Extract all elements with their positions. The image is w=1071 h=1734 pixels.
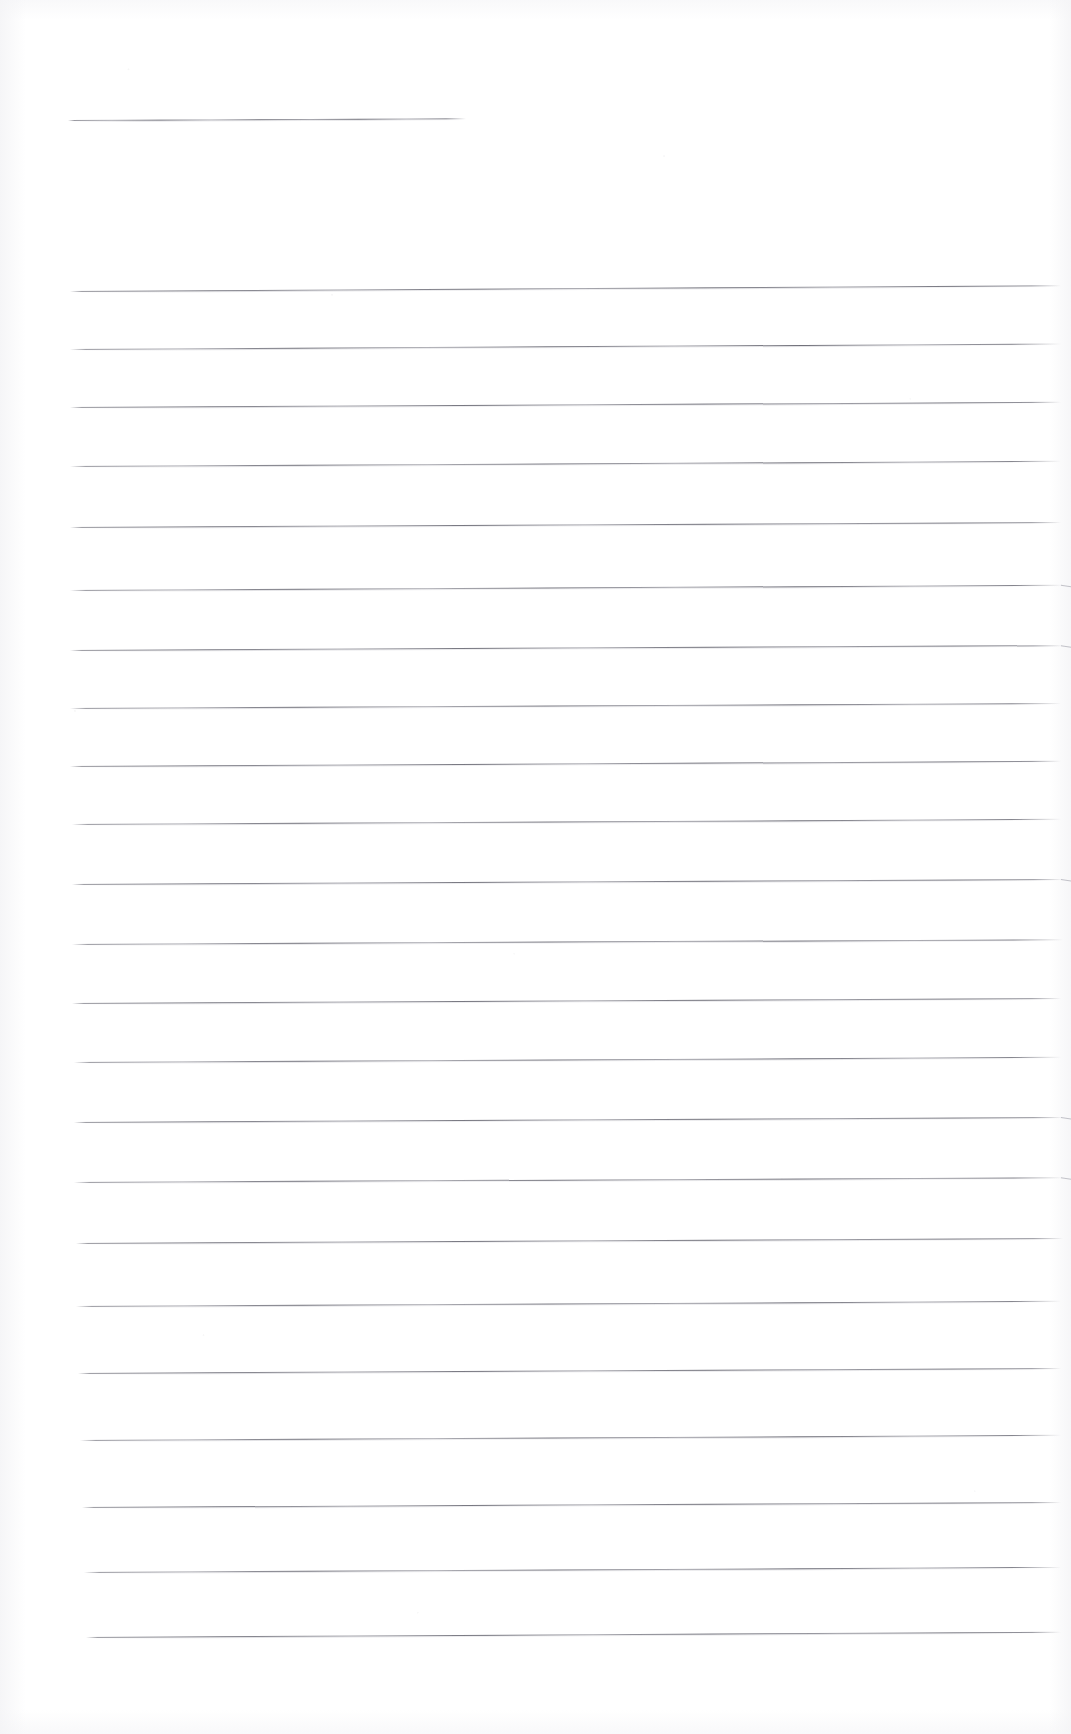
rule-05 <box>70 522 1061 528</box>
rule-18 <box>76 1301 1061 1307</box>
rule-17 <box>76 1238 1063 1244</box>
rule-03 <box>70 402 1061 408</box>
rule-22 <box>84 1567 1061 1573</box>
rule-07 <box>70 645 1063 651</box>
rule-08 <box>70 703 1061 709</box>
rule-10 <box>72 819 1061 825</box>
rule-23 <box>86 1632 1061 1638</box>
rule-header <box>68 118 466 121</box>
paper-grain-overlay <box>0 0 1071 1734</box>
rule-04 <box>70 461 1061 467</box>
rule-21 <box>82 1502 1061 1508</box>
rule-02 <box>70 343 1061 350</box>
page-edge-shading <box>0 0 1071 1734</box>
rule-13 <box>72 998 1061 1004</box>
scanned-page <box>0 0 1071 1734</box>
rule-06 <box>70 585 1063 591</box>
rule-01 <box>70 285 1061 292</box>
rule-09 <box>70 761 1061 767</box>
rule-15 <box>74 1117 1063 1123</box>
rule-20 <box>80 1435 1061 1441</box>
rule-14 <box>74 1057 1061 1063</box>
rule-19 <box>78 1368 1061 1374</box>
rule-16 <box>74 1177 1063 1183</box>
rule-11 <box>72 879 1063 885</box>
rule-12 <box>72 939 1063 945</box>
